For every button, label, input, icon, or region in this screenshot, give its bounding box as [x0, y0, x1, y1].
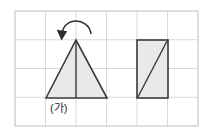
- rotation-arrow-head-icon: [57, 30, 67, 41]
- rotation-arrow: [57, 21, 91, 41]
- triangle-label: (가): [50, 102, 67, 114]
- rotation-arrow-arc: [63, 21, 92, 34]
- diagram-canvas: (가): [0, 0, 211, 137]
- figure-container: (가): [0, 0, 211, 137]
- rectangle-shape: [137, 40, 168, 98]
